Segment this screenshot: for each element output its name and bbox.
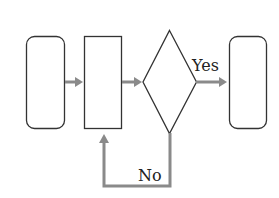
decision-node — [143, 31, 197, 134]
process-node — [85, 37, 122, 129]
arrow-start-to-process — [65, 77, 83, 87]
end-node — [230, 37, 267, 129]
start-node — [27, 37, 65, 129]
arrow-process-to-decision — [122, 77, 142, 87]
no-label: No — [138, 166, 162, 185]
arrow-yes — [196, 77, 227, 87]
flowchart-diagram: Yes No — [0, 0, 279, 198]
yes-label: Yes — [191, 56, 219, 75]
